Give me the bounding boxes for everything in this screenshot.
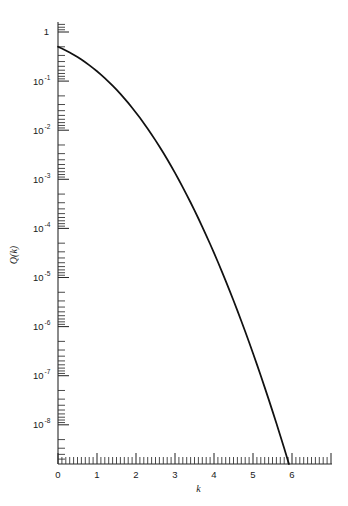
x-axis-title: k (196, 483, 201, 494)
x-tick-label: 1 (94, 469, 99, 480)
y-tick-label: 10 (33, 272, 44, 283)
data-curve-q-of-k (58, 47, 289, 464)
x-axis: 0123456 (55, 453, 332, 480)
y-tick-label-exponent: -8 (45, 417, 51, 424)
x-tick-label: 5 (250, 469, 255, 480)
y-axis-title: Q(k) (8, 245, 20, 264)
y-tick-label-exponent: -3 (45, 172, 51, 179)
y-tick-label: 10 (33, 76, 44, 87)
y-tick-label-exponent: -6 (45, 319, 51, 326)
x-tick-label: 6 (289, 469, 294, 480)
y-tick-label-exponent: -4 (45, 221, 51, 228)
y-tick-label: 10 (33, 370, 44, 381)
y-tick-label-exponent: -2 (45, 123, 51, 130)
y-tick-label: 10 (33, 321, 44, 332)
y-tick-label: 10 (33, 223, 44, 234)
q-function-log-plot: 110-110-210-310-410-510-610-710-8 012345… (0, 0, 348, 506)
y-tick-label: 1 (44, 26, 49, 37)
x-tick-label: 4 (211, 469, 216, 480)
y-tick-label: 10 (33, 419, 44, 430)
x-tick-label: 2 (133, 469, 138, 480)
y-tick-label: 10 (33, 174, 44, 185)
figure-container: 110-110-210-310-410-510-610-710-8 012345… (0, 0, 348, 506)
y-tick-label-exponent: -7 (45, 368, 51, 375)
y-axis: 110-110-210-310-410-510-610-710-8 (33, 22, 69, 464)
y-tick-label-exponent: -5 (45, 270, 51, 277)
data-series-group (58, 47, 289, 464)
x-tick-label: 3 (172, 469, 177, 480)
x-tick-label: 0 (55, 469, 60, 480)
y-tick-label: 10 (33, 125, 44, 136)
y-tick-label-exponent: -1 (45, 74, 51, 81)
